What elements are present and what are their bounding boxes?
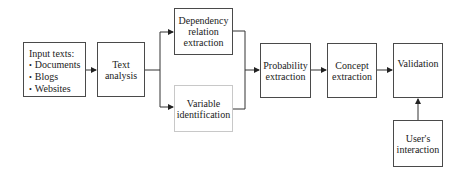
input-texts-box: Input texts: Documents Blogs Websites (23, 42, 86, 97)
users-interaction-box: User's interaction (393, 120, 443, 167)
input-texts-list: Documents Blogs Websites (29, 59, 80, 95)
input-item-documents: Documents (29, 59, 80, 71)
probability-label: Probability extraction (263, 60, 307, 82)
variable-label: Variable identification (177, 98, 230, 120)
dependency-relation-extraction-box: Dependency relation extraction (174, 8, 233, 55)
input-item-websites: Websites (29, 83, 80, 95)
concept-extraction-box: Concept extraction (327, 43, 377, 98)
probability-extraction-box: Probability extraction (260, 43, 311, 98)
validation-box: Validation (393, 43, 443, 98)
text-analysis-box: Text analysis (97, 42, 145, 97)
concept-label: Concept extraction (332, 60, 372, 82)
variable-identification-box: Variable identification (174, 85, 233, 132)
dependency-label: Dependency relation extraction (179, 15, 229, 48)
users-interaction-label: User's interaction (397, 133, 440, 155)
validation-label: Validation (397, 58, 438, 69)
input-item-blogs: Blogs (29, 71, 80, 83)
input-texts-title: Input texts: (29, 48, 80, 59)
text-analysis-label: Text analysis (105, 59, 137, 81)
